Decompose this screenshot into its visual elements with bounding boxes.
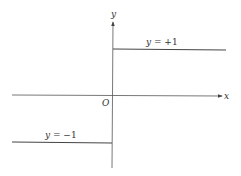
negative-branch-line (12, 142, 112, 143)
signum-diagram: x y O y = +1 y = −1 (0, 0, 241, 176)
y-axis-label: y (110, 9, 117, 19)
x-axis (12, 95, 222, 96)
negative-branch-label: y = −1 (44, 130, 77, 140)
y-axis (112, 22, 113, 168)
x-axis-label: x (224, 91, 229, 101)
positive-branch-label: y = +1 (145, 37, 178, 47)
origin-label: O (102, 98, 110, 108)
positive-branch-line (113, 49, 226, 50)
